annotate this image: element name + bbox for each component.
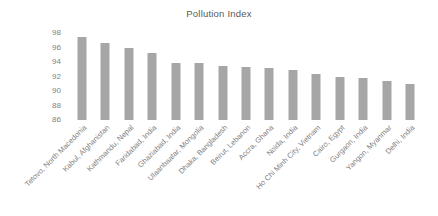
bar[interactable] bbox=[265, 68, 274, 120]
y-axis-tick-label: 88 bbox=[52, 102, 61, 110]
bar-slot bbox=[328, 33, 351, 120]
y-axis-tick-label: 96 bbox=[52, 44, 61, 52]
y-axis-tick-label: 94 bbox=[52, 58, 61, 66]
bar[interactable] bbox=[218, 66, 227, 120]
chart-title: Pollution Index bbox=[0, 8, 438, 19]
bar-slot bbox=[187, 33, 210, 120]
bar-slot bbox=[281, 33, 304, 120]
bar[interactable] bbox=[312, 74, 321, 120]
bar[interactable] bbox=[241, 67, 250, 120]
bar-slot bbox=[70, 33, 93, 120]
bar[interactable] bbox=[195, 63, 204, 120]
bar-slot bbox=[352, 33, 375, 120]
y-axis-tick-label: 98 bbox=[52, 29, 61, 37]
y-axis-tick-label: 90 bbox=[52, 87, 61, 95]
bar[interactable] bbox=[124, 48, 133, 121]
bar[interactable] bbox=[171, 63, 180, 120]
bar-slot bbox=[211, 33, 234, 120]
y-axis-tick-label: 92 bbox=[52, 73, 61, 81]
bar[interactable] bbox=[359, 78, 368, 120]
bar[interactable] bbox=[77, 37, 86, 120]
bar-slot bbox=[258, 33, 281, 120]
y-axis: 98969492908886 bbox=[0, 33, 66, 120]
y-axis-tick-label: 86 bbox=[52, 116, 61, 124]
bar-slot bbox=[164, 33, 187, 120]
bar-slot bbox=[234, 33, 257, 120]
pollution-index-bar-chart: Pollution Index 98969492908886 Tetovo, N… bbox=[0, 0, 438, 216]
bar[interactable] bbox=[288, 70, 297, 120]
x-axis-labels: Tetovo, North MacedoniaKabul, Afghanista… bbox=[70, 120, 422, 216]
bar-slot bbox=[399, 33, 422, 120]
bar[interactable] bbox=[406, 84, 415, 120]
bar-slot bbox=[140, 33, 163, 120]
bar[interactable] bbox=[101, 43, 110, 120]
bar[interactable] bbox=[148, 53, 157, 120]
bar-slot bbox=[375, 33, 398, 120]
plot-area bbox=[70, 33, 422, 120]
bar-slot bbox=[305, 33, 328, 120]
bar-slot bbox=[93, 33, 116, 120]
bar-slot bbox=[117, 33, 140, 120]
bar[interactable] bbox=[382, 81, 391, 120]
bar[interactable] bbox=[335, 77, 344, 121]
